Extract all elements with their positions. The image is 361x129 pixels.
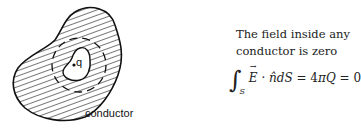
- pi-symbol: π: [318, 71, 326, 85]
- equals-zero: = 0: [336, 71, 361, 85]
- charge-label: q: [76, 56, 82, 68]
- surface-element: dS: [277, 71, 293, 85]
- gauss-law-equation: ∫S E · n̂dS = 4πQ = 0: [229, 66, 361, 96]
- conductor-label: conductor: [85, 107, 133, 119]
- surface-subscript: S: [240, 87, 245, 96]
- description-line-1: The field inside any: [236, 26, 350, 43]
- normal-unit-vector: n̂: [269, 71, 277, 85]
- equals-4: = 4: [293, 71, 318, 85]
- description-line-2: conductor is zero: [236, 43, 337, 60]
- electric-field-vector: E: [249, 71, 258, 85]
- dot-operator: ·: [258, 71, 269, 85]
- enclosed-charge: Q: [326, 71, 336, 85]
